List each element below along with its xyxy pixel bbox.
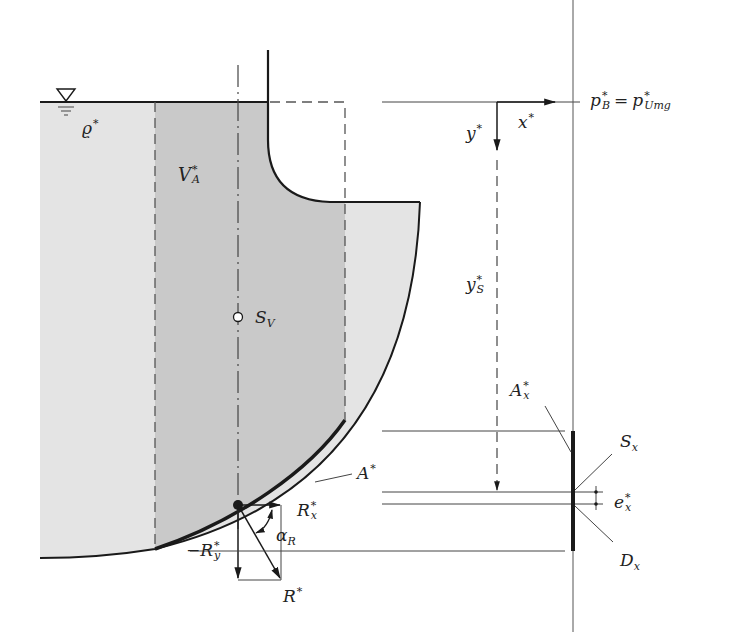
centroid-sv-marker bbox=[234, 313, 243, 322]
surface-leader bbox=[315, 474, 352, 482]
surface-label: A* bbox=[357, 463, 376, 482]
x-axis-label: x* bbox=[518, 112, 534, 131]
pressure-center-label: Dx bbox=[620, 552, 640, 572]
angle-label: αR bbox=[276, 527, 296, 547]
wall-contour bbox=[268, 50, 420, 202]
y-axis-label: y* bbox=[466, 123, 482, 142]
dx-leader bbox=[575, 506, 613, 542]
centroid-sx-label: Sx bbox=[620, 433, 638, 453]
pressure-equation: p*B=p*Umg bbox=[590, 92, 671, 112]
eccentricity-label: e*x bbox=[614, 494, 631, 514]
water-level-triangle-icon bbox=[57, 89, 75, 101]
resultant-arrow bbox=[238, 505, 280, 578]
density-label: ϱ* bbox=[82, 118, 99, 137]
volume-label: V*A bbox=[178, 166, 200, 186]
angle-arc bbox=[256, 510, 272, 533]
sx-leader bbox=[575, 454, 612, 490]
centroid-sv-label: SV bbox=[255, 309, 275, 329]
centroid-depth-label: y*S bbox=[466, 276, 484, 296]
projected-area-label: A*x bbox=[510, 382, 530, 402]
projected-area-leader bbox=[545, 406, 571, 452]
resultant-label: R* bbox=[283, 586, 302, 605]
force-y-label: −R*y bbox=[186, 542, 220, 562]
force-x-label: R*x bbox=[297, 502, 317, 522]
